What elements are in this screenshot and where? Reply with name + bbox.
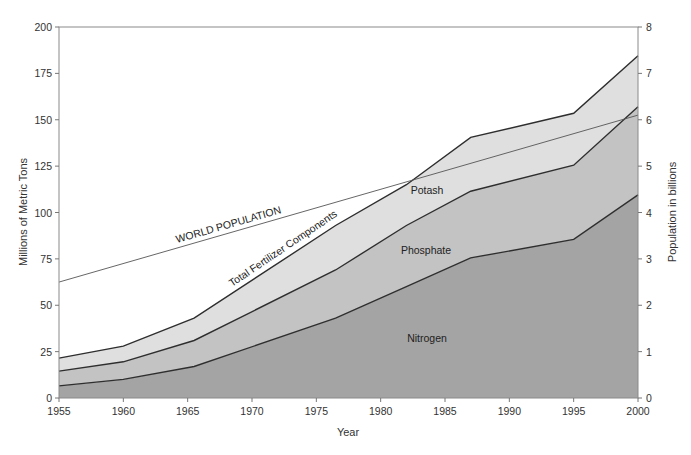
y2-tick-label: 2	[646, 299, 652, 311]
y-tick-label: 100	[34, 207, 52, 219]
y-axis-right-ticks: 012345678	[638, 21, 652, 404]
phosphate-label: Phosphate	[401, 244, 451, 256]
y2-tick-label: 3	[646, 253, 652, 265]
y-tick-label: 50	[40, 299, 52, 311]
y-axis-left-title: Millions of Metric Tons	[17, 158, 29, 266]
x-tick-label: 2000	[626, 405, 650, 417]
x-tick-label: 1980	[369, 405, 393, 417]
y2-tick-label: 0	[646, 392, 652, 404]
x-tick-label: 1970	[240, 405, 264, 417]
y2-tick-label: 7	[646, 67, 652, 79]
x-tick-label: 1960	[112, 405, 136, 417]
y2-tick-label: 4	[646, 207, 652, 219]
potash-label: Potash	[411, 184, 444, 196]
y2-tick-label: 8	[646, 21, 652, 33]
y-tick-label: 75	[40, 253, 52, 265]
world-population-label: WORLD POPULATION	[174, 203, 282, 245]
y-tick-label: 0	[46, 392, 52, 404]
y-axis-left-ticks: 0255075100125150175200	[34, 21, 59, 404]
y-tick-label: 175	[34, 67, 52, 79]
x-tick-label: 1975	[305, 405, 329, 417]
x-tick-label: 1990	[498, 405, 522, 417]
x-tick-label: 1995	[562, 405, 586, 417]
fertilizer-population-chart: 1955196019651970197519801985199019952000…	[0, 0, 691, 455]
y2-tick-label: 5	[646, 160, 652, 172]
y-tick-label: 125	[34, 160, 52, 172]
y-axis-right-title: Population in billions	[666, 161, 678, 262]
y2-tick-label: 6	[646, 114, 652, 126]
nitrogen-label: Nitrogen	[407, 332, 447, 344]
y-tick-label: 25	[40, 346, 52, 358]
y2-tick-label: 1	[646, 346, 652, 358]
stacked-areas	[59, 56, 638, 398]
y-tick-label: 200	[34, 21, 52, 33]
x-tick-label: 1965	[176, 405, 200, 417]
x-axis-title: Year	[337, 426, 360, 438]
y-tick-label: 150	[34, 114, 52, 126]
x-axis-ticks: 1955196019651970197519801985199019952000	[47, 398, 650, 417]
x-tick-label: 1955	[47, 405, 71, 417]
x-tick-label: 1985	[433, 405, 457, 417]
